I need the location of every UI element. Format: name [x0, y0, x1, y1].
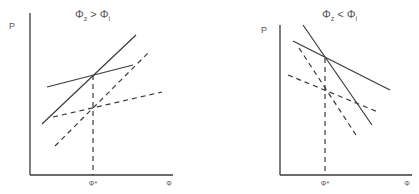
x-tick-label: Φ* [89, 180, 98, 187]
x-tick-label: Φ* [321, 180, 330, 187]
y-axis-label: P [9, 21, 15, 31]
diagram-canvas: Φz > ΦiPΦ*Φ Φz < ΦiPΦ*Φ [0, 0, 419, 194]
right-panel-phi-z-less: Φz < ΦiPΦ*Φ [261, 8, 412, 187]
dashed-curve [288, 75, 378, 112]
x-axis-label: Φ [404, 180, 410, 187]
y-axis-label: P [261, 25, 267, 35]
left-panel-phi-z-greater: Φz > ΦiPΦ*Φ [9, 8, 173, 187]
solid-curve [47, 65, 133, 87]
solid-curve [303, 25, 372, 125]
x-axis-label: Φ [166, 180, 172, 187]
panel-title: Φz < Φi [322, 8, 358, 22]
dashed-curve [53, 92, 162, 117]
panel-title: Φz > Φi [75, 8, 111, 22]
